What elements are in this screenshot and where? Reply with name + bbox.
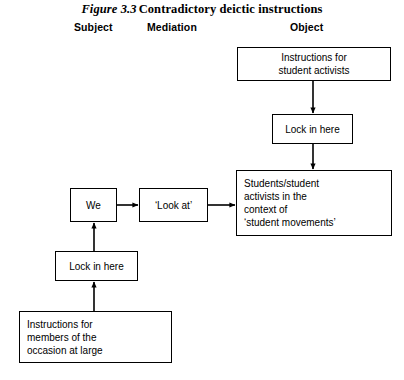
box-instructions-for-student-activists-label: Instructions for student activists — [238, 51, 390, 77]
box-object-students-activists: Students/student activists in the contex… — [236, 170, 392, 236]
column-heading-mediation: Mediation — [147, 21, 197, 33]
box-we: We — [70, 188, 117, 222]
box-lock-in-here-subject-label: Lock in here — [56, 260, 137, 273]
box-instructions-for-members: Instructions for members of the occasion… — [19, 311, 172, 363]
column-heading-subject: Subject — [74, 21, 113, 33]
box-lock-in-here-object-label: Lock in here — [273, 123, 352, 136]
box-look-at-label: ‘Look at’ — [140, 199, 207, 212]
figure-caption: Contradictory deictic instructions — [137, 2, 323, 16]
box-instructions-for-student-activists: Instructions for student activists — [237, 47, 391, 81]
box-lock-in-here-subject: Lock in here — [55, 251, 138, 281]
figure-canvas: Figure 3.3Contradictory deictic instruct… — [0, 0, 404, 380]
box-we-label: We — [71, 199, 116, 212]
box-lock-in-here-object: Lock in here — [272, 114, 353, 144]
box-instructions-for-members-label: Instructions for members of the occasion… — [20, 318, 171, 357]
box-look-at: ‘Look at’ — [139, 188, 208, 222]
column-heading-object: Object — [290, 21, 323, 33]
figure-number: Figure 3.3 — [81, 2, 136, 16]
page-title: Figure 3.3Contradictory deictic instruct… — [0, 2, 404, 17]
box-object-students-activists-label: Students/student activists in the contex… — [237, 177, 391, 229]
